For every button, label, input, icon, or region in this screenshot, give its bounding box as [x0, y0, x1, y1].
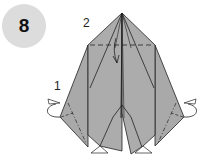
- mountain-fold-arrow-right: [184, 104, 197, 117]
- arrowhead-icon: [184, 99, 196, 104]
- origami-diagram: [0, 0, 215, 162]
- mountain-fold-arrow-left: [47, 104, 60, 117]
- fold-label-1: 1: [54, 79, 61, 93]
- arrowhead-icon: [48, 99, 60, 104]
- fold-label-2: 2: [83, 16, 90, 30]
- right-body: [122, 13, 155, 154]
- left-flap: [60, 45, 88, 147]
- left-body: [88, 13, 122, 151]
- right-flap: [155, 45, 184, 146]
